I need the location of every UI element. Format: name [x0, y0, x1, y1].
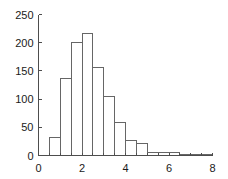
histogram-bar — [126, 141, 137, 156]
histogram-bars — [49, 33, 212, 155]
x-tick-label: 4 — [122, 162, 128, 174]
histogram-bar — [49, 137, 60, 155]
histogram-bar — [82, 33, 93, 155]
histogram-bar — [71, 43, 82, 156]
histogram-bar — [60, 79, 71, 156]
y-axis-ticks: 050100150200250 — [15, 9, 41, 162]
x-tick-label: 0 — [35, 162, 41, 174]
histogram-bar — [93, 68, 104, 156]
y-tick-label: 250 — [15, 9, 33, 21]
histogram-bar — [136, 143, 147, 155]
histogram-bar — [115, 122, 126, 155]
y-tick-label: 100 — [15, 93, 33, 105]
x-tick-label: 2 — [79, 162, 85, 174]
y-tick-label: 50 — [21, 121, 33, 133]
histogram-bar — [104, 96, 115, 155]
x-tick-label: 8 — [209, 162, 215, 174]
y-tick-label: 200 — [15, 37, 33, 49]
histogram-chart: 050100150200250 02468 — [0, 0, 228, 179]
y-tick-label: 150 — [15, 65, 33, 77]
y-tick-label: 0 — [27, 150, 33, 162]
chart-canvas: 050100150200250 02468 — [0, 0, 228, 179]
x-tick-label: 6 — [166, 162, 172, 174]
